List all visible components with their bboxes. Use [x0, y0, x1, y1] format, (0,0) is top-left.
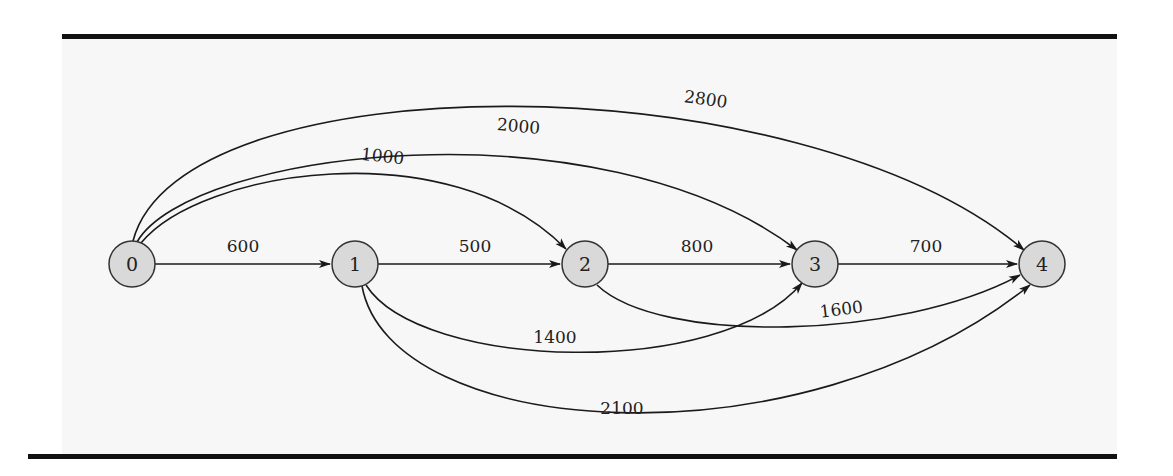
edge-weight-label: 1400 — [533, 327, 576, 347]
edge-weight-label: 2100 — [600, 398, 643, 418]
node-label: 4 — [1036, 253, 1048, 275]
edge-weight-label: 800 — [681, 236, 713, 256]
node-0: 0 — [109, 241, 155, 287]
node-label: 3 — [809, 253, 821, 275]
edge-weight-label: 600 — [227, 236, 259, 256]
node-label: 2 — [579, 253, 591, 275]
edge-weight-label: 500 — [459, 236, 491, 256]
edge-weight-label: 700 — [910, 236, 942, 256]
edge-weight-label: 2000 — [496, 114, 541, 138]
node-label: 1 — [349, 253, 361, 275]
node-1: 1 — [332, 241, 378, 287]
bottom-border-line — [28, 454, 1117, 459]
node-4: 4 — [1019, 241, 1065, 287]
diagram-canvas: 600500800700100020002800140016002100 012… — [0, 0, 1173, 476]
node-label: 0 — [126, 253, 138, 275]
network-diagram: 600500800700100020002800140016002100 012… — [0, 0, 1173, 476]
top-border-line — [62, 34, 1117, 39]
node-3: 3 — [792, 241, 838, 287]
node-2: 2 — [562, 241, 608, 287]
